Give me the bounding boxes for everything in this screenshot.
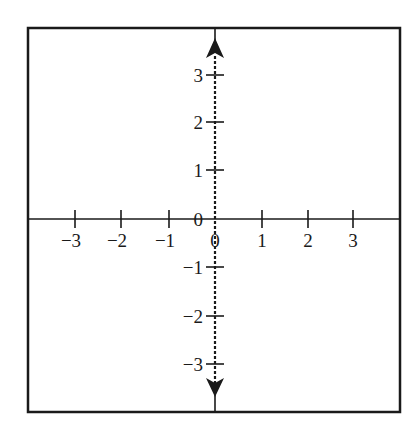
- y-tick-label: 2: [194, 112, 204, 133]
- y-axis-ticks: 3210−1−2−3: [183, 65, 224, 375]
- x-tick-label: 0: [210, 230, 220, 251]
- frame-border: [28, 28, 400, 412]
- x-tick-label: −3: [61, 230, 81, 251]
- arrow-up-icon: [206, 38, 224, 58]
- y-tick-label: −3: [183, 354, 203, 375]
- x-tick-label: 1: [257, 230, 267, 251]
- x-tick-label: −2: [107, 230, 127, 251]
- x-tick-label: −1: [155, 230, 175, 251]
- y-tick-label: −2: [183, 306, 203, 327]
- x-tick-label: 2: [303, 230, 313, 251]
- y-tick-label: 3: [194, 65, 204, 86]
- y-tick-label: 0: [194, 209, 204, 230]
- y-tick-label: −1: [183, 257, 203, 278]
- arrow-down-icon: [206, 378, 224, 397]
- x-axis-ticks: −3−2−10123: [61, 210, 358, 251]
- x-tick-label: 3: [348, 230, 358, 251]
- y-tick-label: 1: [194, 160, 204, 181]
- coordinate-plane: −3−2−10123 3210−1−2−3: [0, 0, 414, 433]
